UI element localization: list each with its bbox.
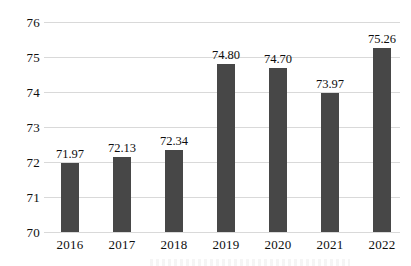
y-tick-label: 71 (6, 191, 40, 204)
x-tick-label-2022: 2022 (356, 238, 408, 252)
x-tick-label-2018: 2018 (148, 238, 200, 252)
bar-2018[interactable] (165, 150, 183, 232)
y-tick-label: 75 (6, 51, 40, 64)
y-axis: 76 75 74 73 72 71 70 (0, 0, 40, 266)
plot-area: 71.97 72.13 72.34 74.80 74.70 73.97 75.2… (44, 22, 400, 232)
bar-value-label: 74.80 (196, 49, 256, 62)
y-tick-label: 70 (6, 226, 40, 239)
gridline-70 (44, 232, 400, 233)
y-tick-label: 76 (6, 16, 40, 29)
bar-2016[interactable] (61, 163, 79, 232)
clipped-caption-remnant (150, 259, 350, 266)
bar-group: 73.97 (304, 22, 356, 232)
x-tick-label-2017: 2017 (96, 238, 148, 252)
x-tick-label-2021: 2021 (304, 238, 356, 252)
bar-value-label: 75.26 (352, 33, 411, 46)
bar-2020[interactable] (269, 68, 287, 233)
bar-2017[interactable] (113, 157, 131, 232)
bar-value-label: 72.13 (92, 142, 152, 155)
x-tick-label-2016: 2016 (44, 238, 96, 252)
bar-value-label: 72.34 (144, 135, 204, 148)
bar-2022[interactable] (373, 48, 391, 232)
x-axis: 2016 2017 2018 2019 2020 2021 2022 (44, 234, 400, 258)
bar-2019[interactable] (217, 64, 235, 232)
bar-group: 71.97 (44, 22, 96, 232)
bar-group: 72.34 (148, 22, 200, 232)
y-tick-label: 73 (6, 121, 40, 134)
bar-value-label: 73.97 (300, 78, 360, 91)
bar-value-label: 71.97 (40, 148, 100, 161)
bar-value-label: 74.70 (248, 53, 308, 66)
bar-group: 75.26 (356, 22, 408, 232)
bar-chart: 76 75 74 73 72 71 70 71.97 72.13 72.34 7… (0, 0, 411, 266)
x-tick-label-2019: 2019 (200, 238, 252, 252)
bar-group: 72.13 (96, 22, 148, 232)
bar-2021[interactable] (321, 93, 339, 232)
bar-group: 74.80 (200, 22, 252, 232)
y-tick-label: 72 (6, 156, 40, 169)
y-tick-label: 74 (6, 86, 40, 99)
bar-group: 74.70 (252, 22, 304, 232)
x-tick-label-2020: 2020 (252, 238, 304, 252)
